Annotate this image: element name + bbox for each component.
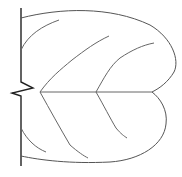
leaf-lower-outline [21, 92, 166, 163]
leaf-diagram [0, 0, 182, 177]
leaf-vein-lower-2 [96, 92, 127, 138]
leaf-upper-outline [21, 11, 176, 92]
stem-line-icon [12, 8, 33, 166]
leaf-vein-upper-1 [21, 20, 59, 50]
leaf-vein-lower-1 [40, 92, 88, 158]
leaf-vein-upper-2 [40, 36, 109, 92]
leaf-vein-lower-3 [21, 128, 46, 152]
leaf-vein-upper-3 [96, 43, 154, 92]
